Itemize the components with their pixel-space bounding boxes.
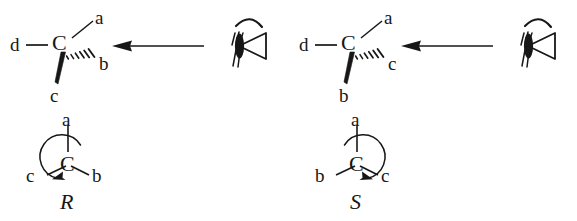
label-substituent-d-s: d bbox=[299, 35, 309, 54]
bond-a-plain-line bbox=[72, 21, 93, 38]
eye-icon bbox=[521, 19, 555, 67]
newman-label-left-s: b bbox=[315, 166, 325, 185]
newman-label-left-r: c bbox=[26, 166, 34, 185]
label-substituent-b-r: b bbox=[99, 54, 109, 73]
panel-s-configuration: d C a c b a C b c S bbox=[289, 0, 577, 221]
bond-b-bold-wedge bbox=[344, 52, 355, 84]
newman-label-top-r: a bbox=[62, 110, 70, 129]
panel-s-vector-layer bbox=[289, 0, 577, 221]
label-substituent-a-s: a bbox=[384, 8, 392, 27]
label-substituent-a-r: a bbox=[95, 8, 103, 27]
newman-label-right-r: b bbox=[92, 166, 102, 185]
label-substituent-c-s: c bbox=[388, 54, 396, 73]
diagram-canvas: d C a b c a C c b R bbox=[0, 0, 577, 221]
panel-r-vector-layer bbox=[0, 0, 288, 221]
view-arrow-left bbox=[112, 41, 204, 52]
label-substituent-b-s: b bbox=[339, 86, 349, 105]
newman-center-carbon-s: C bbox=[349, 153, 364, 175]
eye-icon bbox=[232, 19, 266, 67]
newman-label-right-s: c bbox=[381, 166, 389, 185]
label-center-carbon-s: C bbox=[341, 32, 356, 54]
configuration-label-s: S bbox=[350, 191, 361, 213]
label-substituent-d-r: d bbox=[10, 35, 20, 54]
bond-c-hashed-wedge bbox=[356, 49, 384, 59]
label-substituent-c-r: c bbox=[50, 86, 58, 105]
bond-a-plain-line bbox=[361, 21, 382, 38]
newman-label-top-s: a bbox=[351, 110, 359, 129]
panel-r-configuration: d C a b c a C c b R bbox=[0, 0, 288, 221]
newman-center-carbon-r: C bbox=[60, 153, 75, 175]
bond-c-bold-wedge bbox=[55, 52, 66, 84]
label-center-carbon-r: C bbox=[52, 32, 67, 54]
bond-b-hashed-wedge bbox=[67, 49, 95, 59]
view-arrow-left bbox=[401, 41, 493, 52]
configuration-label-r: R bbox=[60, 191, 73, 213]
